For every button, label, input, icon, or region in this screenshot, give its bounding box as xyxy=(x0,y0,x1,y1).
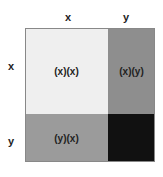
column-label-y: y xyxy=(118,11,134,23)
grid-frame xyxy=(25,28,155,162)
row-label-y: y xyxy=(5,135,17,147)
row-label-x: x xyxy=(5,60,17,72)
column-label-x: x xyxy=(60,11,76,23)
